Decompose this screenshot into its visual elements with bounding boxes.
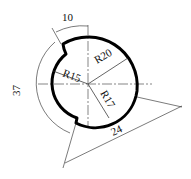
extension-line-right <box>137 97 182 107</box>
dim-line-24 <box>65 106 182 163</box>
drawing-canvas: 10 R20 R15 R17 37 24 <box>0 0 191 179</box>
label-r20: R20 <box>92 46 114 66</box>
label-r17: R17 <box>98 88 118 110</box>
r20-leader <box>88 58 128 84</box>
cam-profile-outline <box>52 37 137 128</box>
label-37: 37 <box>10 85 22 97</box>
label-10: 10 <box>62 11 74 23</box>
dim-arc-10 <box>56 26 88 32</box>
extension-line-bottom <box>63 123 76 168</box>
label-r15: R15 <box>61 67 83 85</box>
